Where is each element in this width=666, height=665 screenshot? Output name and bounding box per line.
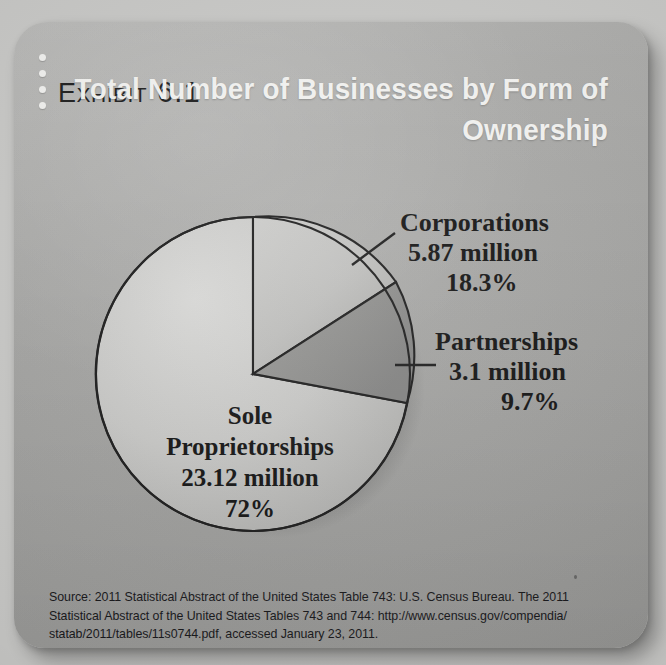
callout-sole-value: 23.12 million — [130, 462, 370, 493]
source-line-2: Statistical Abstract of the United State… — [49, 607, 611, 626]
dot-icon — [39, 54, 46, 61]
callout-sole-name-line-1: Sole — [130, 400, 370, 431]
dot-icon — [39, 70, 46, 77]
leader-line-corporations — [352, 233, 395, 265]
dot-column-decoration — [39, 54, 46, 109]
pie-slice-partnerships — [253, 282, 414, 403]
callout-corporations: Corporations 5.87 million 18.3% — [400, 208, 549, 298]
exhibit-header: EXHIBIT6.1 Total Number of Businesses by… — [14, 48, 648, 158]
callout-corporations-name: Corporations — [400, 208, 549, 238]
callout-partnerships-value: 3.1 million — [435, 357, 578, 387]
callout-partnerships-name: Partnerships — [435, 327, 578, 357]
dot-icon — [39, 86, 46, 93]
callout-sole-percent: 72% — [130, 493, 370, 524]
page-title: Total Number of Businesses by Form of Ow… — [56, 68, 608, 150]
title-line-1: Total Number of Businesses — [75, 72, 454, 105]
source-line-1: Source: 2011 Statistical Abstract of the… — [49, 588, 611, 607]
callout-corporations-percent: 18.3% — [400, 268, 549, 298]
source-line-3: statab/2011/tables/11s0744.pdf, accessed… — [49, 625, 611, 644]
pie-slice-corporations — [253, 216, 396, 374]
paper-speck — [574, 575, 577, 579]
source-note: Source: 2011 Statistical Abstract of the… — [49, 588, 611, 644]
callout-partnerships: Partnerships 3.1 million 9.7% — [435, 327, 578, 417]
dot-icon — [39, 102, 46, 109]
exhibit-card: EXHIBIT6.1 Total Number of Businesses by… — [14, 22, 648, 648]
callout-corporations-value: 5.87 million — [400, 238, 549, 268]
callout-partnerships-percent: 9.7% — [435, 387, 578, 417]
callout-sole-name-line-2: Proprietorships — [130, 431, 370, 462]
callout-sole-proprietorships: Sole Proprietorships 23.12 million 72% — [130, 400, 370, 524]
title-line-2: by Form of Ownership — [462, 72, 608, 146]
